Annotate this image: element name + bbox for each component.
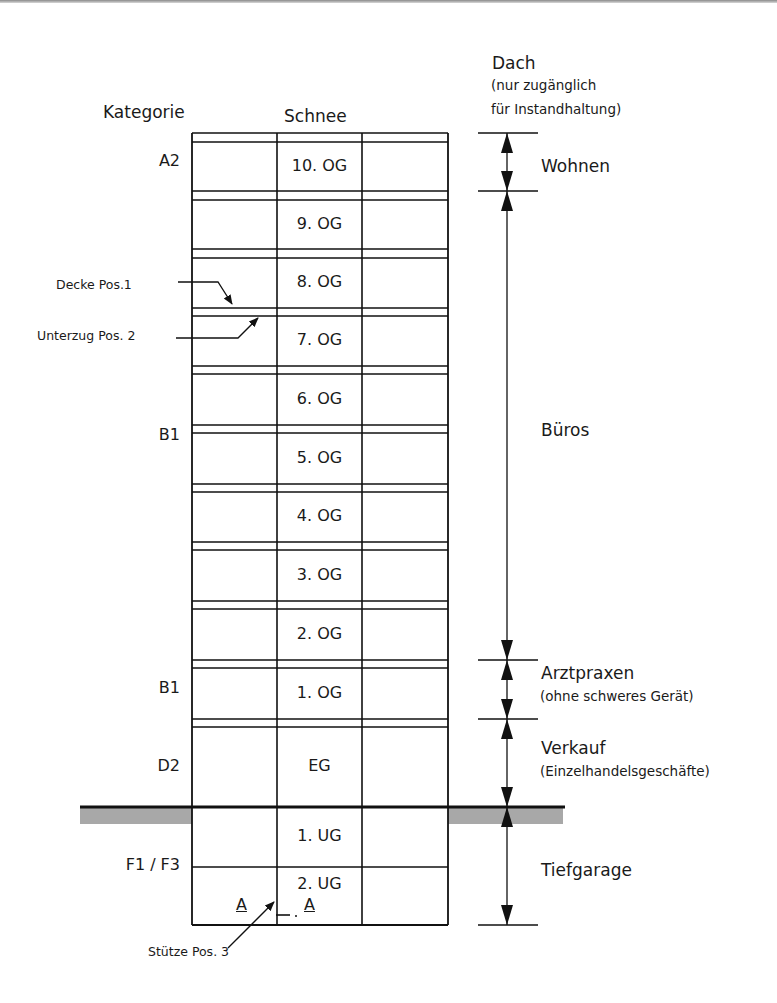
floor-label: 2. UG — [281, 876, 358, 892]
floor-label: 6. OG — [281, 391, 358, 407]
usage-label: Verkauf — [541, 740, 605, 757]
usage-sublabel: (Einzelhandelsgeschäfte) — [540, 765, 710, 779]
arrow-down-icon — [501, 171, 513, 191]
usage-label: Arztpraxen — [541, 665, 634, 682]
arrow-down-icon — [501, 699, 513, 719]
floor-label: 1. UG — [281, 828, 358, 844]
usage-sublabel: (ohne schweres Gerät) — [540, 690, 694, 704]
category-label: F1 / F3 — [126, 857, 180, 873]
floor-label: 4. OG — [281, 508, 358, 524]
usage-label: Wohnen — [541, 158, 610, 175]
arrow-up-icon — [501, 133, 513, 153]
category-label: B1 — [159, 427, 180, 443]
decke-leader-arrow — [178, 282, 232, 304]
ground-level — [80, 807, 565, 824]
category-label: A2 — [159, 153, 180, 169]
usage-label: Tiefgarage — [541, 862, 632, 879]
arrow-up-icon — [501, 191, 513, 211]
section-cut-dot — [295, 915, 297, 917]
section-mark-left: A — [236, 897, 247, 913]
category-label: B1 — [159, 680, 180, 696]
section-mark-right: A — [304, 897, 315, 913]
callout-unterzug-pos-2: Unterzug Pos. 2 — [37, 330, 135, 343]
floor-label: 2. OG — [281, 626, 358, 642]
floor-label: 9. OG — [281, 216, 358, 232]
floor-label: 1. OG — [281, 685, 358, 701]
ground-hatch-left — [80, 808, 192, 824]
floor-label: 7. OG — [281, 332, 358, 348]
arrow-down-icon — [501, 640, 513, 660]
floor-label: 5. OG — [281, 450, 358, 466]
floor-label: 8. OG — [281, 274, 358, 290]
roof-note-line-1: (nur zugänglich — [491, 79, 596, 93]
unterzug-leader-arrow — [176, 318, 258, 338]
roof-note-line-2: für Instandhaltung) — [491, 103, 621, 117]
callout-arrows — [176, 282, 297, 948]
header-category: Kategorie — [103, 104, 185, 121]
header-snow: Schnee — [284, 108, 347, 125]
arrow-down-icon — [501, 787, 513, 807]
arrow-up-icon — [501, 660, 513, 680]
floor-label: 10. OG — [281, 158, 358, 174]
building-section-diagram — [0, 0, 777, 1003]
header-roof: Dach — [492, 55, 536, 72]
arrow-up-icon — [501, 719, 513, 739]
floor-label: EG — [281, 758, 358, 774]
callout-decke-pos-1: Decke Pos.1 — [56, 279, 132, 292]
floor-label: 3. OG — [281, 567, 358, 583]
callout-stuetze-pos-3: Stütze Pos. 3 — [148, 946, 229, 959]
arrow-down-icon — [501, 905, 513, 925]
category-label: D2 — [158, 758, 181, 774]
usage-label: Büros — [541, 422, 589, 439]
